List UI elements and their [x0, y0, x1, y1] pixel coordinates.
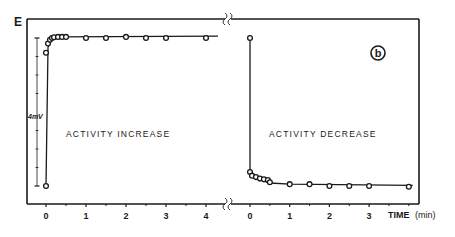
data-point [267, 180, 272, 185]
data-point [367, 184, 372, 189]
x-tick-label: 1 [287, 211, 292, 221]
x-tick-label: 0 [247, 211, 252, 221]
x-tick-label: 1 [83, 211, 88, 221]
panel-badge: b [371, 46, 385, 60]
x-axis-label: TIME (min) [388, 210, 436, 220]
scale-bar-label: 4mV [27, 113, 44, 120]
data-point [347, 184, 352, 189]
data-point [406, 184, 411, 189]
data-point [307, 182, 312, 187]
chart-frame [27, 19, 419, 204]
x-axis-ticks: 012340123 [43, 204, 408, 221]
data-point [44, 50, 49, 55]
data-point [84, 36, 89, 41]
x-axis-title: TIME [388, 210, 410, 220]
data-point [64, 34, 69, 39]
data-point [124, 34, 129, 39]
panel-left-label: ACTIVITY INCREASE [66, 129, 170, 139]
data-series [44, 34, 413, 189]
axis-break-icon [223, 13, 232, 210]
x-axis-unit: (min) [415, 210, 436, 220]
x-tick-label: 3 [163, 211, 168, 221]
x-tick-label: 2 [327, 211, 332, 221]
data-point [204, 36, 209, 41]
panel-badge-label: b [375, 47, 382, 59]
scale-bar [35, 38, 40, 186]
data-point [287, 182, 292, 187]
panel-right-label: ACTIVITY DECREASE [269, 129, 377, 139]
x-tick-label: 4 [203, 211, 208, 221]
data-point [104, 36, 109, 41]
data-point [164, 36, 169, 41]
data-point [144, 36, 149, 41]
y-axis-label: E [14, 15, 22, 29]
x-tick-label: 2 [123, 211, 128, 221]
chart-figure: E 4mV b ACTIVITY INCREASE ACTIVITY DECRE… [0, 0, 455, 237]
data-point [248, 36, 253, 41]
x-tick-label: 3 [367, 211, 372, 221]
fit-line [46, 36, 218, 186]
data-point [44, 184, 49, 189]
x-tick-label: 0 [43, 211, 48, 221]
fit-line [250, 38, 413, 185]
data-point [327, 184, 332, 189]
